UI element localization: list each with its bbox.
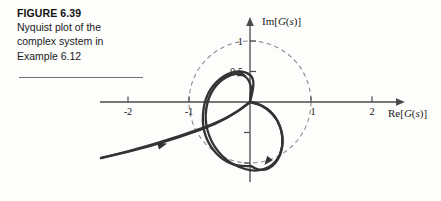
tick-label-real-1: 1 (310, 106, 315, 117)
tick-label-imag-1: 1 (238, 36, 243, 47)
imaginary-axis-label-suffix: ] (297, 15, 301, 27)
tick-label-real-minus1: -1 (185, 106, 194, 117)
nyquist-curve-overlay (101, 74, 283, 171)
real-axis-label-suffix: ] (423, 107, 427, 119)
tick-label-real-2: 2 (369, 106, 374, 117)
transfer-function-symbol-g-imag: G (278, 15, 286, 27)
imaginary-axis-label-prefix: Im[ (262, 15, 278, 27)
tick-label-real-minus2: -2 (124, 106, 133, 117)
real-axis-label-prefix: Re[ (388, 107, 404, 119)
real-axis-arrowhead (396, 98, 405, 106)
imaginary-axis-arrowhead (246, 17, 254, 26)
real-axis-label: Re[G(s)] (388, 107, 427, 120)
nyquist-plot: -2 -1 1 2 1 0.5 Im[G(s)] Re[G(s)] (0, 0, 441, 201)
plot-canvas: -2 -1 1 2 1 0.5 Im[G(s)] Re[G(s)] (0, 0, 441, 201)
imaginary-axis-label: Im[G(s)] (262, 15, 301, 28)
transfer-function-symbol-g-real: G (404, 107, 412, 119)
